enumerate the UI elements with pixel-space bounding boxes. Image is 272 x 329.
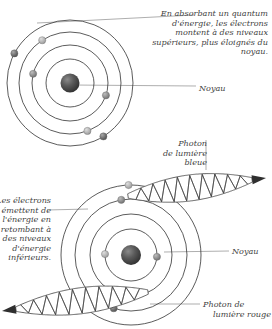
photon-arrowhead xyxy=(2,305,17,314)
atome-absorption xyxy=(7,20,133,146)
photon-red-label-line2: lumière rouge xyxy=(203,310,271,320)
leader-emission xyxy=(47,209,88,210)
electron-6 xyxy=(100,133,107,140)
electron-5 xyxy=(84,127,91,134)
electron-2 xyxy=(39,37,46,44)
leader-noyau-top xyxy=(72,85,196,86)
leader-noyau-bottom xyxy=(164,251,229,252)
photon-lumiere-bleue xyxy=(128,174,266,203)
nucleus xyxy=(61,74,80,93)
photon-red-label-line1: Photon de xyxy=(203,299,244,309)
photon-blue-label: Photon de lumière bleue xyxy=(152,139,207,168)
absorption-note: En absorbant un quantum d'énergie, les é… xyxy=(136,9,268,57)
photon-arrowhead xyxy=(252,175,267,184)
photon-envelope xyxy=(128,174,253,203)
electron-4 xyxy=(102,92,109,99)
photon-red-label: Photon de lumière rouge xyxy=(203,300,271,319)
electron-5 xyxy=(118,196,125,203)
illustration-canvas: En absorbant un quantum d'énergie, les é… xyxy=(0,0,272,329)
generated-geometry xyxy=(2,15,266,325)
nucleus-label-top: Noyau xyxy=(199,84,226,94)
electron-6 xyxy=(125,181,132,188)
photon-blue-label-line2: de lumière xyxy=(163,148,207,158)
electron-1 xyxy=(11,50,18,57)
emission-note: Les électrons émettent de l'énergie en r… xyxy=(0,196,51,263)
nucleus-label-bottom: Noyau xyxy=(232,247,259,257)
nucleus xyxy=(121,245,141,265)
photon-blue-label-line1: Photon xyxy=(178,138,207,148)
electron-1 xyxy=(101,250,108,257)
electron-2 xyxy=(153,253,160,260)
photon-blue-label-line3: bleue xyxy=(184,157,207,167)
electron-3 xyxy=(30,70,37,77)
